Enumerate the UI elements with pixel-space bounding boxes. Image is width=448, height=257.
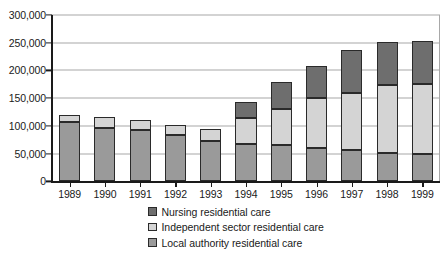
x-tick-label: 1992 <box>164 188 187 200</box>
legend-swatch-local-authority-icon <box>148 238 157 247</box>
bar-segment <box>412 84 433 154</box>
bar-segment <box>306 148 327 181</box>
bar-group <box>200 15 221 181</box>
x-tick-mark <box>175 182 176 187</box>
bar-group <box>271 15 292 181</box>
x-tick-mark <box>105 182 106 187</box>
bar-segment <box>271 82 292 110</box>
bar-segment <box>235 118 256 144</box>
bar-segment <box>377 85 398 152</box>
x-axis-tick-labels: 1989199019911992199319941995199619971998… <box>52 188 440 204</box>
legend-swatch-independent-sector-icon <box>148 223 157 232</box>
bar-segment <box>377 153 398 182</box>
plot-area: 050,000100,000150,000200,000250,000300,0… <box>0 0 448 200</box>
bar-segment <box>165 125 186 134</box>
x-tick-label: 1994 <box>235 188 258 200</box>
bar-segment <box>94 128 115 181</box>
stacked-bar-chart: 050,000100,000150,000200,000250,000300,0… <box>0 0 448 257</box>
legend-label-nursing: Nursing residential care <box>162 206 271 218</box>
bars-layer <box>52 15 440 181</box>
y-tick-label: 100,000 <box>9 120 46 132</box>
bar-segment <box>235 102 256 119</box>
x-tick-mark <box>140 182 141 187</box>
x-tick-label: 1997 <box>340 188 363 200</box>
bar-segment <box>306 66 327 98</box>
x-tick-mark <box>246 182 247 187</box>
bar-segment <box>412 154 433 181</box>
y-tick-label: 50,000 <box>14 148 46 160</box>
bar-group <box>94 15 115 181</box>
legend-item-nursing: Nursing residential care <box>148 205 324 218</box>
bar-group <box>377 15 398 181</box>
x-tick-mark <box>387 182 388 187</box>
x-tick-mark <box>317 182 318 187</box>
x-tick-mark <box>211 182 212 187</box>
x-tick-label: 1993 <box>199 188 222 200</box>
x-tick-label: 1996 <box>305 188 328 200</box>
bar-segment <box>94 117 115 128</box>
y-tick-label: 250,000 <box>9 37 46 49</box>
y-tick-label: 300,000 <box>9 9 46 21</box>
bar-group <box>235 15 256 181</box>
x-tick-label: 1990 <box>93 188 116 200</box>
bar-group <box>165 15 186 181</box>
bar-segment <box>130 120 151 129</box>
bar-segment <box>341 150 362 181</box>
x-tick-label: 1999 <box>411 188 434 200</box>
bar-segment <box>235 144 256 181</box>
x-tick-label: 1989 <box>58 188 81 200</box>
x-tick-label: 1998 <box>376 188 399 200</box>
bar-segment <box>341 50 362 93</box>
x-tick-label: 1995 <box>270 188 293 200</box>
legend-item-independent-sector: Independent sector residential care <box>148 221 324 234</box>
x-tick-mark <box>281 182 282 187</box>
legend-label-independent-sector: Independent sector residential care <box>162 221 324 233</box>
bar-segment <box>341 93 362 150</box>
legend-item-local-authority: Local authority residential care <box>148 236 324 249</box>
bar-segment <box>271 109 292 145</box>
bar-segment <box>200 129 221 141</box>
bar-group <box>412 15 433 181</box>
bar-segment <box>59 122 80 182</box>
bar-segment <box>130 130 151 182</box>
bar-group <box>59 15 80 181</box>
x-tick-mark <box>422 182 423 187</box>
bar-segment <box>377 42 398 86</box>
bar-segment <box>271 145 292 181</box>
bar-group <box>341 15 362 181</box>
bar-segment <box>165 135 186 182</box>
x-tick-mark <box>70 182 71 187</box>
y-tick-label: 150,000 <box>9 92 46 104</box>
bar-segment <box>59 115 80 122</box>
y-axis-tick-labels: 050,000100,000150,000200,000250,000300,0… <box>0 0 50 200</box>
bar-segment <box>412 41 433 85</box>
x-tick-mark <box>352 182 353 187</box>
chart-legend: Nursing residential care Independent sec… <box>148 205 324 249</box>
legend-swatch-nursing-icon <box>148 207 157 216</box>
x-tick-label: 1991 <box>129 188 152 200</box>
bar-group <box>130 15 151 181</box>
y-tick-label: 200,000 <box>9 64 46 76</box>
bar-segment <box>200 141 221 181</box>
bar-segment <box>306 98 327 148</box>
bar-group <box>306 15 327 181</box>
legend-label-local-authority: Local authority residential care <box>162 237 303 249</box>
